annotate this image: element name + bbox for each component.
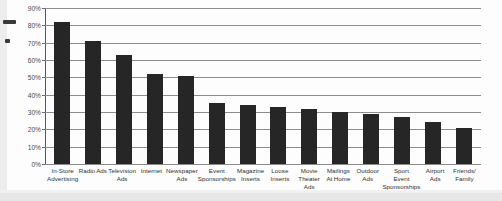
- category-label-line: Sport: [382, 167, 420, 175]
- category-label-line: Friends/: [450, 167, 479, 175]
- category-label-line: At Home: [324, 175, 353, 183]
- bar: [209, 103, 225, 164]
- category-label-line: Sponsorships: [382, 183, 420, 191]
- category-label-line: Family: [450, 175, 479, 183]
- category-label-line: Radio Ads: [78, 167, 107, 175]
- category-label: Internet: [137, 167, 166, 192]
- bar-column: [325, 8, 356, 164]
- margin-artifact-secondary-icon: [5, 39, 10, 43]
- bar: [54, 22, 70, 164]
- bar-chart: 0%10%20%30%40%50%60%70%80%90% In-StoreAd…: [19, 4, 489, 196]
- margin-artifact-icon: [3, 20, 16, 24]
- bar-column: [417, 8, 448, 164]
- category-label-line: Outdoor: [353, 167, 382, 175]
- y-axis-tick-label: 30%: [28, 109, 41, 116]
- bar-column: [170, 8, 201, 164]
- category-label-line: Magazine: [236, 167, 265, 175]
- category-label-line: Airport Ads: [420, 167, 449, 183]
- bar: [456, 128, 472, 164]
- bar: [301, 109, 317, 164]
- category-label: EventSponsorships: [198, 167, 236, 192]
- bar: [240, 105, 256, 164]
- category-label: Friends/Family: [450, 167, 479, 192]
- y-axis-tick-label: 0%: [31, 161, 41, 168]
- category-labels-group: In-StoreAdvertisingRadio AdsTelevisionAd…: [45, 167, 481, 192]
- bar-column: [232, 8, 263, 164]
- y-axis-tick-mark: [42, 164, 45, 165]
- bar-column: [201, 8, 232, 164]
- bar-column: [448, 8, 479, 164]
- category-label-line: Mailings: [324, 167, 353, 175]
- category-label-line: Ads: [353, 175, 382, 183]
- gridline: [45, 164, 481, 165]
- category-label: Airport Ads: [420, 167, 449, 192]
- category-label-line: Inserts: [265, 175, 294, 183]
- category-label-line: In-Store: [47, 167, 78, 175]
- bars-group: [45, 8, 481, 164]
- bar: [147, 74, 163, 164]
- category-label-line: Ads: [107, 175, 136, 183]
- y-axis-tick-label: 60%: [28, 57, 41, 64]
- bar: [116, 55, 132, 164]
- category-label-line: Event: [382, 175, 420, 183]
- category-label: NewspaperAds: [166, 167, 198, 192]
- category-label: TelevisionAds: [107, 167, 136, 192]
- bar-column: [140, 8, 171, 164]
- category-label: SportEventSponsorships: [382, 167, 420, 192]
- category-label: Radio Ads: [78, 167, 107, 192]
- category-label-line: Newspaper: [166, 167, 198, 175]
- bar-column: [386, 8, 417, 164]
- category-label-line: Ads: [166, 175, 198, 183]
- bar: [85, 41, 101, 164]
- y-axis-tick-label: 10%: [28, 143, 41, 150]
- category-label-line: Sponsorships: [198, 175, 236, 183]
- category-label-line: Inserts: [236, 175, 265, 183]
- bar: [332, 112, 348, 164]
- page-left-margin-band: [0, 0, 7, 193]
- plot-area: 0%10%20%30%40%50%60%70%80%90%: [45, 8, 481, 165]
- bar: [425, 122, 441, 164]
- category-label-line: Advertising: [47, 175, 78, 183]
- bar-column: [263, 8, 294, 164]
- y-axis-tick-label: 80%: [28, 22, 41, 29]
- bar: [178, 76, 194, 164]
- bar-column: [78, 8, 109, 164]
- y-axis-tick-label: 40%: [28, 91, 41, 98]
- bar: [363, 114, 379, 164]
- category-label: LooseInserts: [265, 167, 294, 192]
- bar-column: [47, 8, 78, 164]
- category-label-line: Television: [107, 167, 136, 175]
- category-label-line: Loose: [265, 167, 294, 175]
- category-label: MagazineInserts: [236, 167, 265, 192]
- y-axis-tick-label: 50%: [28, 74, 41, 81]
- bar: [270, 107, 286, 164]
- category-label-line: Internet: [137, 167, 166, 175]
- category-label-line: Movie: [295, 167, 324, 175]
- category-label: In-StoreAdvertising: [47, 167, 78, 192]
- category-label-line: Theater Ads: [295, 175, 324, 191]
- category-label: MovieTheater Ads: [295, 167, 324, 192]
- category-label-line: Event: [198, 167, 236, 175]
- category-label: MailingsAt Home: [324, 167, 353, 192]
- scanned-page-background: 0%10%20%30%40%50%60%70%80%90% In-StoreAd…: [0, 0, 502, 201]
- y-axis-tick-label: 90%: [28, 5, 41, 12]
- bar-column: [356, 8, 387, 164]
- bar: [394, 117, 410, 164]
- y-axis-tick-label: 70%: [28, 39, 41, 46]
- category-label: OutdoorAds: [353, 167, 382, 192]
- bar-column: [294, 8, 325, 164]
- bar-column: [109, 8, 140, 164]
- y-axis-tick-label: 20%: [28, 126, 41, 133]
